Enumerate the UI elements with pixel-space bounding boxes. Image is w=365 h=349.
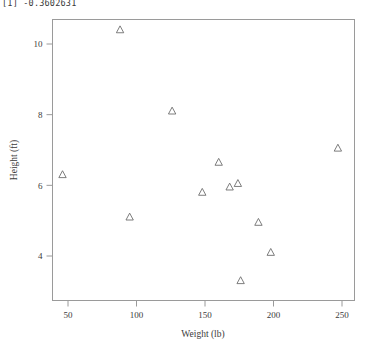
y-tick-label: 10 [34,39,44,49]
data-point-marker [59,171,66,178]
plot-frame [53,20,355,301]
data-point-marker [255,218,262,225]
data-point-marker [215,158,222,165]
data-point-marker [126,213,133,220]
data-point-marker [226,183,233,190]
x-axis-ticks: 50100150200250 [64,301,350,320]
x-tick-label: 150 [198,310,212,320]
x-axis-label: Weight (lb) [181,329,224,340]
scatter-plot: 50100150200250 46810 Weight (lb) Height … [0,0,365,349]
data-point-marker [234,180,241,187]
data-point-marker [199,188,206,195]
x-tick-label: 100 [130,310,144,320]
x-tick-label: 250 [335,310,349,320]
y-tick-label: 8 [38,110,43,120]
data-point-marker [168,107,175,114]
data-point-marker [116,26,123,33]
y-tick-label: 6 [38,181,43,191]
data-point-marker [237,277,244,284]
y-tick-label: 4 [38,251,43,261]
data-points [59,26,342,284]
x-tick-label: 200 [267,310,281,320]
x-tick-label: 50 [64,310,74,320]
data-point-marker [267,248,274,255]
y-axis-ticks: 46810 [34,39,53,261]
y-axis-label: Height (ft) [9,140,20,180]
data-point-marker [334,144,341,151]
